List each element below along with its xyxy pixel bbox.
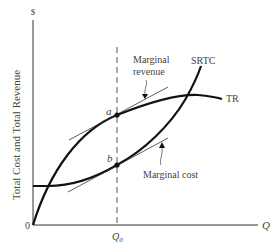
y-axis-symbol: $ xyxy=(31,7,36,17)
tr-label: TR xyxy=(226,93,239,104)
q0-label: Q0 xyxy=(112,231,123,244)
marginal-cost-arrowhead-icon xyxy=(159,142,165,148)
x-axis-symbol: Q xyxy=(262,219,270,231)
cost-revenue-diagram: $ Q 0 Total Cost and Total Revenue Q0 a … xyxy=(0,0,276,247)
marginal-cost-label: Marginal cost xyxy=(143,169,198,180)
marginal-revenue-label-1: Marginal xyxy=(133,54,170,65)
y-axis-label: Total Cost and Total Revenue xyxy=(10,70,22,200)
point-a-label: a xyxy=(106,105,112,117)
marginal-revenue-arrow-icon xyxy=(145,80,147,96)
marginal-revenue-label-2: revenue xyxy=(133,66,165,77)
point-b-label: b xyxy=(107,152,113,164)
srtc-label: SRTC xyxy=(191,55,216,66)
origin-label: 0 xyxy=(25,220,30,231)
point-a xyxy=(114,112,119,117)
marginal-cost-arrow-icon xyxy=(160,146,162,165)
point-b xyxy=(114,162,119,167)
